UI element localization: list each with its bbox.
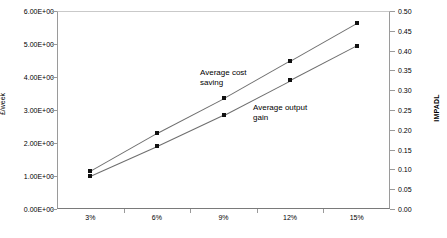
data-point-marker [222, 113, 226, 117]
y-axis-left-tick-mark [52, 77, 57, 78]
y-axis-right-tick-mark [390, 51, 395, 52]
y-axis-left-tick-label: 3.00E+00 [24, 107, 54, 114]
y-axis-left-tick-mark [52, 110, 57, 111]
y-axis-right-tick-mark [390, 31, 395, 32]
data-point-marker [288, 59, 292, 63]
data-point-marker [288, 78, 292, 82]
x-axis-tick-mark [190, 209, 191, 213]
y-axis-right-title: IMPADL [433, 94, 440, 122]
y-axis-right-tick-mark [390, 130, 395, 131]
data-point-marker [88, 174, 92, 178]
y-axis-right-tick-label: 0.15 [398, 146, 412, 153]
y-axis-right-tick-mark [390, 90, 395, 91]
y-axis-right-tick-label: 0.45 [398, 27, 412, 34]
x-axis-tick-label: 6% [152, 214, 162, 221]
y-axis-right-tick-label: 0.20 [398, 126, 412, 133]
y-axis-left-tick-label: 0.00E+00 [24, 206, 54, 213]
y-axis-right-tick-label: 0.30 [398, 87, 412, 94]
x-axis-tick-label: 15% [350, 214, 364, 221]
y-axis-left-tick-label: 4.00E+00 [24, 74, 54, 81]
y-axis-right-tick-mark [390, 150, 395, 151]
y-axis-left-tick-mark [52, 44, 57, 45]
y-axis-left-tick-label: 6.00E+00 [24, 8, 54, 15]
y-axis-left-tick-label: 1.00E+00 [24, 173, 54, 180]
annotation-average-cost-saving: Average cost saving [200, 68, 247, 88]
y-axis-left-tick-mark [52, 11, 57, 12]
y-axis-right-tick-mark [390, 70, 395, 71]
y-axis-right-tick-label: 0.40 [398, 47, 412, 54]
y-axis-right-tick-label: 0.50 [398, 8, 412, 15]
x-axis-tick-label: 3% [85, 214, 95, 221]
y-axis-right-tick-label: 0.00 [398, 206, 412, 213]
data-point-marker [355, 44, 359, 48]
y-axis-right-tick-mark [390, 169, 395, 170]
y-axis-left-tick-mark [52, 143, 57, 144]
y-axis-right-tick-mark [390, 189, 395, 190]
plot-area [57, 11, 390, 209]
y-axis-left-tick-mark [52, 176, 57, 177]
y-axis-right-tick-mark [390, 110, 395, 111]
y-axis-right-tick-label: 0.10 [398, 166, 412, 173]
y-axis-right-tick-label: 0.25 [398, 107, 412, 114]
x-axis-tick-mark [124, 209, 125, 213]
chart-container: £/week IMPADL 0.00E+001.00E+002.00E+003.… [0, 0, 447, 238]
data-point-marker [155, 131, 159, 135]
y-axis-left-tick-label: 2.00E+00 [24, 140, 54, 147]
y-axis-right-tick-mark [390, 11, 395, 12]
data-point-marker [222, 96, 226, 100]
y-axis-left-tick-label: 5.00E+00 [24, 41, 54, 48]
y-axis-left-tick-mark [52, 209, 57, 210]
y-axis-right-tick-label: 0.05 [398, 186, 412, 193]
data-point-marker [155, 144, 159, 148]
x-axis-tick-label: 9% [218, 214, 228, 221]
data-point-marker [88, 169, 92, 173]
y-axis-right-tick-label: 0.35 [398, 67, 412, 74]
data-point-marker [355, 21, 359, 25]
x-axis-tick-label: 12% [283, 214, 297, 221]
y-axis-left-title: £/week [0, 93, 6, 115]
x-axis-tick-mark [323, 209, 324, 213]
annotation-average-output-gain: Average output gain [253, 103, 307, 123]
y-axis-right-tick-mark [390, 209, 395, 210]
x-axis-tick-mark [257, 209, 258, 213]
